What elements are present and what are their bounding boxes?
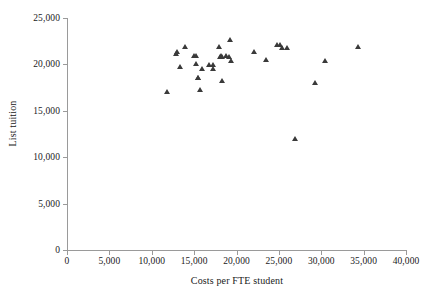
data-point-marker xyxy=(263,57,269,62)
data-point-marker xyxy=(355,44,361,49)
y-axis-tick-label: 0 xyxy=(2,245,60,255)
data-point-marker xyxy=(251,49,257,54)
x-axis-tick-label: 40,000 xyxy=(393,256,420,266)
data-point-marker xyxy=(322,58,328,63)
x-axis-tick xyxy=(194,251,195,255)
x-axis-tick xyxy=(321,251,322,255)
x-axis-tick-label: 15,000 xyxy=(181,256,208,266)
x-axis-tick-label: 5,000 xyxy=(98,256,120,266)
data-point-marker xyxy=(312,80,318,85)
x-axis-tick xyxy=(406,251,407,255)
x-axis-tick xyxy=(364,251,365,255)
x-axis-tick xyxy=(109,251,110,255)
data-point-marker xyxy=(210,66,216,71)
data-point-marker xyxy=(292,136,298,141)
data-point-marker xyxy=(199,66,205,71)
x-axis-tick-label: 20,000 xyxy=(223,256,250,266)
x-axis-title: Costs per FTE student xyxy=(67,275,407,286)
x-axis-tick xyxy=(67,251,68,255)
data-point-marker xyxy=(177,64,183,69)
data-point-marker xyxy=(164,89,170,94)
plot-area xyxy=(67,18,406,250)
data-point-marker xyxy=(193,53,199,58)
data-point-marker xyxy=(219,78,225,83)
x-axis-tick xyxy=(279,251,280,255)
y-axis-tick-label: 25,000 xyxy=(2,13,60,23)
data-point-marker xyxy=(197,87,203,92)
y-axis-title: List tuition xyxy=(7,74,18,174)
data-point-marker xyxy=(227,37,233,42)
data-point-marker xyxy=(228,58,234,63)
x-axis-tick-label: 0 xyxy=(65,256,70,266)
x-axis-tick xyxy=(152,251,153,255)
y-axis-tick-label: 20,000 xyxy=(2,59,60,69)
y-axis-tick-label: 5,000 xyxy=(2,199,60,209)
x-axis-tick-label: 25,000 xyxy=(266,256,293,266)
data-point-marker xyxy=(174,49,180,54)
data-point-marker xyxy=(284,45,290,50)
x-axis-tick xyxy=(237,251,238,255)
scatter-chart: 05,00010,00015,00020,00025,000 05,00010,… xyxy=(0,0,424,299)
data-point-marker xyxy=(216,44,222,49)
x-axis-tick-label: 30,000 xyxy=(308,256,335,266)
data-point-marker xyxy=(195,75,201,80)
data-point-marker xyxy=(182,44,188,49)
x-axis-tick-label: 10,000 xyxy=(138,256,165,266)
x-axis-tick-label: 35,000 xyxy=(350,256,377,266)
